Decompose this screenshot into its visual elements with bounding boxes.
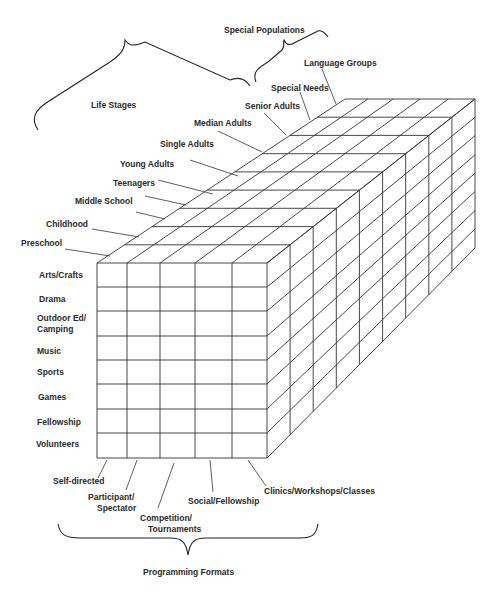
row-label-sports: Sports	[37, 367, 64, 378]
column-label-clinics-workshops-classes: Clinics/Workshops/Classes	[264, 486, 375, 497]
column-label-spectator: Spectator	[97, 503, 136, 514]
column-label-social-fellowship: Social/Fellowship	[188, 496, 259, 507]
depth-label-childhood: Childhood	[46, 219, 88, 230]
group-label-programming-formats: Programming Formats	[143, 567, 234, 577]
leader-lines	[65, 69, 336, 508]
row-label-fellowship: Fellowship	[37, 417, 81, 428]
depth-label-language-groups: Language Groups	[304, 58, 377, 69]
row-label-outdoor-ed: Outdoor Ed/	[37, 313, 86, 324]
row-label-volunteers: Volunteers	[36, 439, 79, 450]
row-label-games: Games	[38, 392, 66, 403]
cube-grid	[97, 99, 475, 458]
brace-special-populations	[255, 31, 328, 82]
row-label-arts-crafts: Arts/Crafts	[39, 270, 83, 281]
column-label-competition: Competition/	[140, 513, 192, 524]
brace-life-stages	[34, 40, 250, 130]
depth-label-senior-adults: Senior Adults	[245, 101, 300, 112]
depth-label-young-adults: Young Adults	[120, 159, 174, 170]
depth-label-preschool: Preschool	[21, 238, 62, 249]
depth-label-median-adults: Median Adults	[194, 118, 252, 129]
depth-label-teenagers: Teenagers	[113, 178, 155, 189]
depth-label-single-adults: Single Adults	[160, 139, 214, 150]
column-label-self-directed: Self-directed	[53, 476, 105, 487]
row-label-music: Music	[37, 346, 61, 357]
group-label-life-stages: Life Stages	[91, 100, 136, 110]
group-label-special-populations: Special Populations	[224, 25, 305, 35]
depth-label-special-needs: Special Needs	[271, 83, 329, 94]
column-label-participant: Participant/	[88, 492, 134, 503]
row-label-camping: Camping	[37, 324, 73, 335]
row-label-drama: Drama	[39, 294, 65, 305]
depth-label-middle-school: Middle School	[75, 196, 133, 207]
column-label-tournaments: Tournaments	[148, 524, 201, 535]
